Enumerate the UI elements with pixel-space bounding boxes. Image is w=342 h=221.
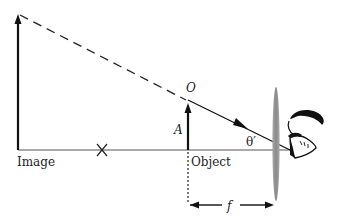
eye-icon	[288, 110, 324, 158]
object-arrow-head	[185, 103, 192, 113]
ray-arrow-head	[233, 118, 248, 129]
magnifier-diagram: Image Object A O θ′ f	[0, 0, 342, 221]
focal-length-label: f	[226, 199, 234, 213]
object-height-label: A	[173, 123, 183, 137]
focal-length-left-head	[190, 202, 199, 209]
converging-lens	[272, 87, 279, 201]
object-tip-label: O	[186, 81, 196, 95]
object-label: Object	[191, 155, 231, 169]
virtual-ray-dashed	[20, 15, 186, 100]
image-label: Image	[17, 155, 55, 169]
angle-label: θ′	[246, 135, 256, 149]
focal-length-right-head	[265, 202, 274, 209]
